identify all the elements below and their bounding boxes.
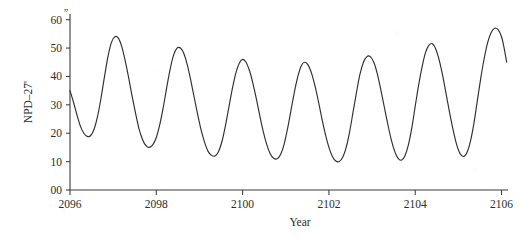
x-tick-label: 2100 xyxy=(231,198,254,210)
chart-figure: 00102030405060 209620982100210221042106 … xyxy=(0,0,522,239)
x-tick-label: 2098 xyxy=(145,198,168,210)
y-tick-label: 30 xyxy=(51,99,63,111)
y-tick-label: 00 xyxy=(51,184,63,196)
x-tick-label: 2102 xyxy=(317,198,340,210)
x-tick-label: 2096 xyxy=(59,198,82,210)
x-tick-label: 2106 xyxy=(490,198,513,210)
x-axis-title: Year xyxy=(289,216,310,228)
y-tick-label: 10 xyxy=(51,156,63,168)
y-tick-label: 20 xyxy=(51,127,63,139)
y-tick-label: 50 xyxy=(51,42,63,54)
y-tick-label: 40 xyxy=(51,70,63,82)
x-tick-label: 2104 xyxy=(404,198,427,210)
double-prime-annotation: ” xyxy=(64,7,68,18)
y-axis-title: NPD–27' xyxy=(22,81,34,123)
y-tick-label: 60 xyxy=(51,14,63,26)
line-chart-svg: 00102030405060 209620982100210221042106 … xyxy=(0,0,522,239)
